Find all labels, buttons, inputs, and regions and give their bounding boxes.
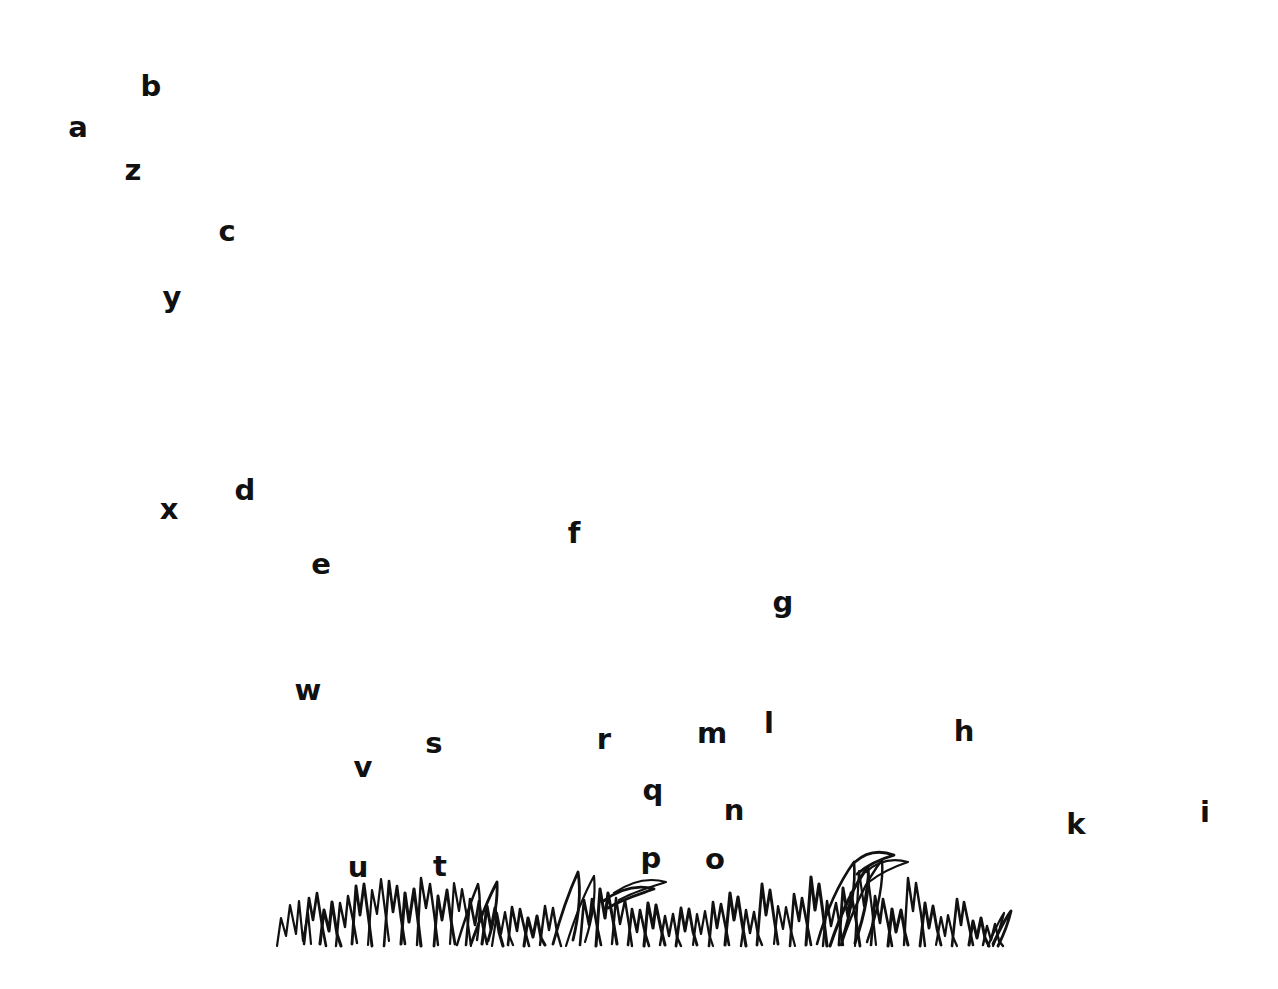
grass-blade <box>774 906 795 946</box>
grass-blade <box>644 903 665 946</box>
grass-blade <box>855 852 894 874</box>
letter-label-v: v <box>354 753 373 782</box>
letter-label-w: w <box>295 676 322 705</box>
grass-blade <box>866 860 908 882</box>
letter-label-o: o <box>705 845 725 874</box>
letter-label-b: b <box>141 72 162 101</box>
grass-blade <box>277 901 311 946</box>
grass-blade <box>806 877 827 946</box>
grass-blade <box>566 876 595 946</box>
grass-blade <box>580 899 601 945</box>
grass-blade <box>936 915 957 946</box>
letter-label-c: c <box>218 217 235 246</box>
grass-blade <box>466 899 487 945</box>
letter-label-q: q <box>643 776 664 805</box>
grass-blade <box>830 867 868 946</box>
grass-blade <box>553 872 579 944</box>
grass-drawing <box>0 0 1278 989</box>
letter-label-s: s <box>425 729 442 758</box>
letter-label-e: e <box>311 550 331 579</box>
grass-blade <box>482 906 503 946</box>
grass-blade <box>757 884 778 945</box>
grass-blade <box>817 862 854 944</box>
letter-label-n: n <box>724 796 745 825</box>
grass-blade <box>855 871 876 946</box>
grass-blade <box>612 898 632 946</box>
grass-blade <box>904 878 925 946</box>
letter-label-i: i <box>1200 798 1210 827</box>
grass-blade <box>352 884 372 946</box>
grass-blade <box>660 914 681 946</box>
grass-blade <box>790 894 811 946</box>
grass-blade <box>508 907 529 946</box>
letter-label-r: r <box>597 725 611 754</box>
letter-label-a: a <box>68 113 88 142</box>
grass-blade <box>993 911 1011 946</box>
grass-blade <box>693 911 713 946</box>
grass-blade <box>988 913 1004 946</box>
letter-label-m: m <box>697 719 727 748</box>
grass-blade <box>741 910 762 946</box>
grass-blade <box>920 903 941 946</box>
grass-blade <box>492 912 513 946</box>
grass-blade <box>969 918 989 946</box>
letter-label-d: d <box>235 476 256 505</box>
grass-blade <box>471 882 497 944</box>
grass-blade <box>304 893 326 946</box>
grass-blade <box>401 889 421 946</box>
grass-blade <box>676 908 697 946</box>
letter-label-p: p <box>641 844 662 873</box>
letter-label-u: u <box>348 853 369 882</box>
letter-label-x: x <box>160 495 179 524</box>
grass-blade <box>368 879 389 945</box>
grass-blade <box>614 880 666 900</box>
letter-label-t: t <box>433 852 447 881</box>
grass-blade <box>450 883 471 946</box>
grass-blade <box>524 916 545 946</box>
grass-svg <box>0 0 1278 989</box>
grass-blade <box>983 924 1003 946</box>
grass-blade <box>596 889 617 946</box>
grass-blade <box>336 896 357 946</box>
letter-label-g: g <box>773 588 794 617</box>
letter-label-y: y <box>163 283 182 312</box>
grass-blade <box>871 896 892 946</box>
grass-blade <box>457 884 480 945</box>
grass-blade <box>320 902 341 946</box>
grass-blade <box>628 909 649 946</box>
grass-blade <box>602 887 654 908</box>
grass-blade <box>725 893 746 946</box>
letter-label-h: h <box>954 717 975 746</box>
grass-blade <box>434 890 455 946</box>
grass-blade <box>709 902 729 946</box>
grass-blade <box>952 899 973 946</box>
grass-blade <box>417 878 438 945</box>
grass-blade <box>888 909 908 946</box>
letter-label-f: f <box>568 519 581 548</box>
letter-label-l: l <box>764 709 774 738</box>
grass-blade <box>823 901 843 946</box>
grass-blade <box>839 888 860 946</box>
grass-blade <box>384 881 405 946</box>
letter-label-k: k <box>1066 810 1085 839</box>
sketch-canvas: bazcydxfegwlhmrsvqnikpout <box>0 0 1278 989</box>
grass-blade <box>841 860 882 945</box>
letter-label-z: z <box>125 156 142 185</box>
grass-blade <box>540 906 561 946</box>
